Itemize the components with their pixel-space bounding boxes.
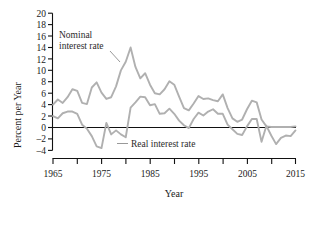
y-tick-label-2: 2	[41, 112, 46, 122]
chart-figure: Percent per Year 20 18 16 14 12 10 8 6 4…	[0, 0, 314, 237]
y-tick-label-16: 16	[37, 32, 47, 42]
x-tick-label-1965: 1965	[44, 169, 63, 179]
y-tick-label-8: 8	[41, 77, 46, 87]
y-tick-label-6: 6	[41, 89, 46, 99]
y-tick-label-14: 14	[37, 43, 47, 53]
x-axis-ticks	[53, 159, 296, 165]
y-tick-label-20: 20	[37, 9, 47, 19]
x-tick-label-1995: 1995	[189, 169, 208, 179]
y-tick-label-minus2: –2	[36, 134, 47, 144]
y-tick-label-4: 4	[41, 100, 46, 110]
interest-rate-line-chart: Percent per Year 20 18 16 14 12 10 8 6 4…	[0, 0, 314, 237]
y-axis-ticks	[48, 13, 53, 150]
annotation-nominal-line2: interest rate	[59, 41, 104, 51]
x-axis-title: Year	[165, 188, 184, 199]
x-tick-label-2015: 2015	[286, 169, 305, 179]
annotation-nominal-line1: Nominal	[59, 30, 93, 40]
x-tick-label-1985: 1985	[141, 169, 160, 179]
x-tick-label-1975: 1975	[92, 169, 111, 179]
x-tick-label-2005: 2005	[238, 169, 257, 179]
y-tick-label-0: 0	[41, 123, 46, 133]
y-tick-label-18: 18	[37, 20, 47, 30]
annotation-leader-nominal	[110, 51, 120, 62]
y-tick-label-minus4: –4	[36, 146, 47, 156]
y-axis-title: Percent per Year	[12, 82, 23, 148]
y-tick-label-12: 12	[37, 55, 47, 65]
y-tick-label-10: 10	[37, 66, 47, 76]
annotation-real: Real interest rate	[131, 139, 195, 149]
